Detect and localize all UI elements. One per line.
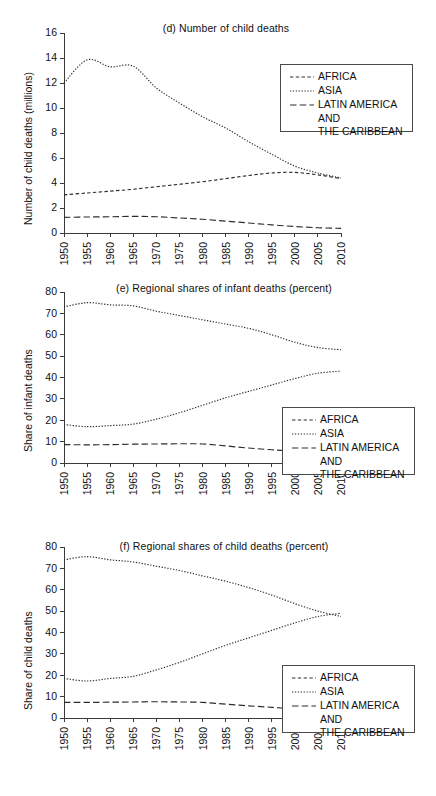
x-tick-label: 1965 (127, 727, 139, 751)
legend-row-latin: LATIN AMERICA AND THE CARIBBEAN (288, 98, 405, 126)
x-tick-label: 1960 (104, 727, 116, 751)
x-tick-label: 2000 (289, 472, 301, 496)
y-tick-label: 50 (45, 349, 57, 361)
y-tick-label: 0 (51, 226, 57, 238)
x-tick-label: 1985 (220, 472, 232, 496)
y-tick-label: 40 (45, 626, 57, 638)
legend-swatch-asia (290, 427, 320, 440)
legend-swatch-africa (290, 671, 320, 684)
legend-label-asia: ASIA (318, 84, 342, 98)
x-tick-label: 1985 (220, 727, 232, 751)
y-tick-label: 20 (45, 669, 57, 681)
y-tick-label: 70 (45, 307, 57, 319)
x-tick-label: 1950 (58, 472, 70, 496)
legend-label-asia: ASIA (320, 427, 344, 441)
y-tick-label: 10 (45, 690, 57, 702)
x-tick-label: 1955 (81, 472, 93, 496)
y-tick-label: 10 (45, 101, 57, 113)
legend-e: AFRICA ASIA LATIN AMERICA AND THE CARIBB… (282, 407, 415, 475)
x-tick-label: 1995 (266, 472, 278, 496)
legend-f: AFRICA ASIA LATIN AMERICA AND THE CARIBB… (282, 665, 415, 733)
x-tick-label: 1975 (173, 727, 185, 751)
legend-row-africa: AFRICA (290, 413, 407, 427)
y-tick-label: 0 (51, 711, 57, 723)
x-tick-label: 1990 (243, 727, 255, 751)
x-tick-label: 1980 (197, 472, 209, 496)
legend-swatch-latin (290, 441, 320, 454)
legend-label-latin: LATIN AMERICA AND THE CARIBBEAN (318, 98, 405, 139)
y-tick-label: 2 (51, 201, 57, 213)
x-tick-label: 1970 (150, 727, 162, 751)
legend-row-asia: ASIA (290, 685, 407, 699)
x-tick-label: 1955 (81, 727, 93, 751)
y-tick-label: 20 (45, 414, 57, 426)
legend-label-africa: AFRICA (320, 671, 359, 685)
legend-label-africa: AFRICA (320, 413, 359, 427)
legend-swatch-africa (290, 413, 320, 426)
legend-swatch-africa (288, 70, 318, 83)
series-line-asia (64, 303, 341, 350)
y-tick-label: 0 (51, 456, 57, 468)
legend-label-asia: ASIA (320, 685, 344, 699)
legend-label-africa: AFRICA (318, 70, 357, 84)
y-tick-label: 14 (45, 51, 57, 63)
y-tick-label: 10 (45, 435, 57, 447)
plot-area-f: 0102030405060708019501955196019651970197… (0, 520, 436, 796)
x-tick-label: 1995 (266, 727, 278, 751)
series-line-asia (64, 557, 341, 617)
legend-swatch-asia (288, 84, 318, 97)
legend-d: AFRICA ASIA LATIN AMERICA AND THE CARIBB… (280, 64, 413, 132)
legend-label-latin: LATIN AMERICA AND THE CARIBBEAN (320, 441, 407, 482)
legend-swatch-latin (288, 98, 318, 111)
series-line-africa (64, 172, 341, 195)
y-tick-label: 80 (45, 285, 57, 297)
y-tick-label: 30 (45, 392, 57, 404)
y-tick-label: 12 (45, 76, 57, 88)
legend-row-latin: LATIN AMERICA AND THE CARIBBEAN (290, 699, 407, 727)
chart-svg-f: 0102030405060708019501955196019651970197… (0, 520, 436, 796)
x-tick-label: 1975 (173, 472, 185, 496)
x-tick-label: 1950 (58, 727, 70, 751)
x-tick-label: 1980 (197, 727, 209, 751)
legend-row-latin: LATIN AMERICA AND THE CARIBBEAN (290, 441, 407, 469)
y-tick-label: 30 (45, 647, 57, 659)
chart-panel-e: (e) Regional shares of infant deaths (pe… (0, 262, 436, 520)
x-tick-label: 1990 (243, 472, 255, 496)
chart-panel-d: (d) Number of child deaths Number of chi… (0, 0, 436, 262)
x-tick-label: 1970 (150, 472, 162, 496)
legend-row-africa: AFRICA (290, 671, 407, 685)
series-line-latin (64, 216, 341, 228)
legend-row-africa: AFRICA (288, 70, 405, 84)
legend-row-asia: ASIA (290, 427, 407, 441)
y-tick-label: 80 (45, 540, 57, 552)
x-tick-label: 1960 (104, 472, 116, 496)
y-tick-label: 40 (45, 371, 57, 383)
y-tick-label: 70 (45, 562, 57, 574)
y-tick-label: 60 (45, 328, 57, 340)
legend-swatch-latin (290, 699, 320, 712)
y-tick-label: 60 (45, 583, 57, 595)
y-tick-label: 4 (51, 176, 57, 188)
chart-panel-f: (f) Regional shares of child deaths (per… (0, 520, 436, 796)
x-tick-label: 1965 (127, 472, 139, 496)
legend-swatch-asia (290, 685, 320, 698)
legend-label-latin: LATIN AMERICA AND THE CARIBBEAN (320, 699, 407, 740)
legend-row-asia: ASIA (288, 84, 405, 98)
y-tick-label: 16 (45, 26, 57, 38)
y-tick-label: 6 (51, 151, 57, 163)
y-tick-label: 8 (51, 126, 57, 138)
y-tick-label: 50 (45, 604, 57, 616)
